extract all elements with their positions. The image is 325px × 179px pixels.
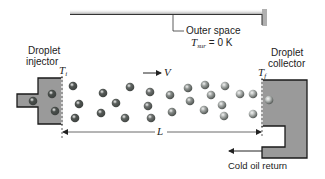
t-sur-label: Tsur = 0 K — [191, 37, 233, 52]
length-label: L — [157, 126, 163, 137]
t-sur-subscript: sur — [197, 42, 206, 50]
droplet — [144, 102, 153, 111]
droplet — [75, 100, 84, 109]
outer-space-boundary — [70, 9, 267, 26]
outer-space-label: Outer space — [186, 25, 240, 36]
droplet — [126, 83, 135, 92]
velocity-label: V — [164, 67, 171, 78]
t-sur-value: = 0 K — [209, 37, 233, 48]
t-f-label: Tf — [258, 67, 266, 82]
droplet — [97, 109, 106, 118]
cold-oil-return-label: Cold oil return — [228, 160, 287, 171]
droplet-radiator-diagram — [0, 0, 325, 179]
collector-label-line2: collector — [268, 58, 305, 69]
t-i-subscript: i — [65, 70, 67, 78]
droplet — [207, 91, 216, 100]
droplet — [147, 114, 156, 123]
collector-label-line1: Droplet — [271, 47, 303, 58]
droplet — [29, 97, 38, 106]
outer-space-leader-line — [173, 15, 184, 31]
droplet — [218, 101, 227, 110]
injector-label-line2: injector — [26, 56, 58, 67]
droplet — [200, 106, 209, 115]
droplet — [220, 112, 229, 121]
droplet — [265, 96, 274, 105]
droplet — [201, 81, 210, 90]
droplet — [51, 107, 60, 116]
droplet — [71, 114, 80, 123]
droplet — [112, 99, 121, 108]
droplet-stream — [29, 81, 274, 123]
droplet — [48, 90, 57, 99]
droplet — [184, 84, 193, 93]
droplet — [146, 88, 155, 97]
droplet — [69, 82, 78, 91]
droplet — [99, 89, 108, 98]
droplet — [249, 110, 258, 119]
injector-label-line1: Droplet — [28, 45, 60, 56]
droplet — [168, 108, 177, 117]
droplet-collector — [262, 78, 307, 158]
droplet — [186, 97, 195, 106]
droplet — [166, 91, 175, 100]
t-f-subscript: f — [264, 72, 266, 80]
droplet — [236, 90, 245, 99]
droplet — [121, 114, 130, 123]
droplet — [221, 82, 230, 91]
droplet — [249, 90, 258, 99]
t-i-label: Ti — [59, 65, 67, 80]
